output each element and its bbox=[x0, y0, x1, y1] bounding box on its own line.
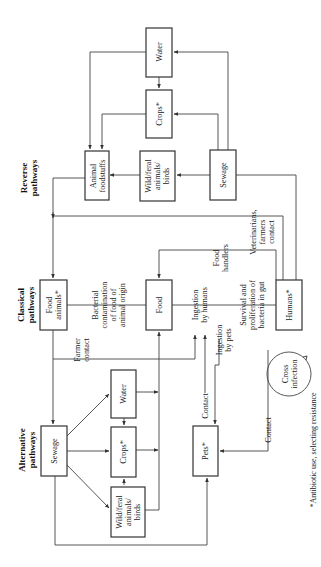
label-animal-foodstuffs: Animalfoodstuffs bbox=[89, 159, 107, 192]
label-humans: Humans* bbox=[285, 289, 294, 320]
label-water-reverse: Water bbox=[155, 42, 164, 62]
edge-bacterial-contamination: Bacterialcontaminationof food ofanimal o… bbox=[91, 282, 127, 329]
section-reverse-pathways: Reversepathways bbox=[19, 159, 39, 196]
footnote-antibiotic-use: *Antibiotic use, selecting resistance bbox=[309, 392, 318, 508]
edge-survival-proliferation: Survival andproliferation ofbacteria in … bbox=[239, 280, 266, 330]
label-sewage-reverse: Sewage bbox=[219, 162, 228, 188]
label-crops-alt: Crops* bbox=[119, 440, 128, 464]
label-food: Food bbox=[155, 297, 164, 314]
edge-farmer-contact: Farmercontact bbox=[73, 337, 91, 361]
label-cross-infection: Crossinfection bbox=[281, 359, 299, 388]
label-sewage-alt: Sewage bbox=[50, 438, 59, 464]
edge-contact-pets-humans: Contact bbox=[201, 393, 210, 419]
label-crops-reverse: Crops* bbox=[155, 102, 164, 126]
edge-ingestion-pets: Ingestionby pets bbox=[215, 325, 233, 355]
section-classical-pathways: Classicalpathways bbox=[16, 286, 36, 323]
section-alternative-pathways: Alternativepathways bbox=[17, 428, 37, 471]
edge-contact-humans-pets: Contact bbox=[264, 417, 273, 443]
pathway-diagram: ReversepathwaysClassicalpathwaysAlternat… bbox=[0, 0, 321, 567]
edge-ingestion-humans: Ingestionby humans bbox=[191, 287, 209, 323]
edge-food-handlers: Foodhandlers bbox=[212, 244, 230, 272]
label-water-alt: Water bbox=[119, 384, 128, 404]
label-pets: Pets* bbox=[201, 442, 210, 460]
